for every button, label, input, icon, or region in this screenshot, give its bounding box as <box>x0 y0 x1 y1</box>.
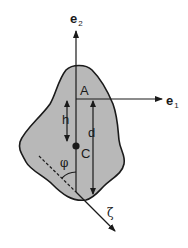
e1-label: e1 <box>166 94 179 110</box>
d-label: d <box>88 126 95 139</box>
e2-label: e2 <box>70 12 83 28</box>
centroid-c-label: C <box>81 147 90 160</box>
diagram-canvas: e2 e1 A h d C φ ζ <box>0 0 188 248</box>
centroid-point <box>72 142 79 149</box>
rigid-body-shape <box>19 66 124 201</box>
diagram-graphics <box>0 0 188 248</box>
point-a-label: A <box>80 84 89 97</box>
phi-label: φ <box>60 157 68 169</box>
h-label: h <box>62 113 69 126</box>
zeta-label: ζ <box>107 207 114 219</box>
